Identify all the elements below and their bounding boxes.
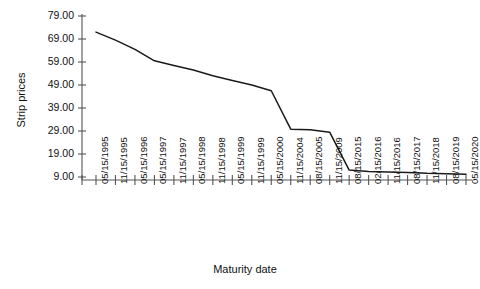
- x-tick-label: 11/15/2009: [334, 120, 344, 184]
- x-tick-label: 08/15/2019: [451, 120, 461, 184]
- x-tick-label: 11/15/2016: [392, 120, 402, 184]
- x-tick-label: 11/15/1999: [256, 120, 266, 184]
- y-tick-label: 79.00: [20, 10, 74, 20]
- x-tick-label: 11/15/1997: [178, 120, 188, 184]
- y-tick-label: 19.00: [20, 148, 74, 158]
- x-tick-label: 08/15/2015: [353, 120, 363, 184]
- x-tick-label: 05/15/2000: [275, 120, 285, 184]
- x-axis-title: Maturity date: [140, 263, 350, 275]
- x-tick-label: 05/15/1995: [100, 120, 110, 184]
- x-tick-label: 11/15/2004: [295, 120, 305, 184]
- x-tick-label: 05/15/1999: [236, 120, 246, 184]
- x-tick-label: 08/15/2005: [314, 120, 324, 184]
- y-tick-label: 59.00: [20, 56, 74, 66]
- x-tick-label: 02/15/2016: [373, 120, 383, 184]
- y-tick-label: 9.00: [20, 171, 74, 181]
- x-tick-label: 11/15/2018: [431, 120, 441, 184]
- x-tick-label: 11/15/1998: [217, 120, 227, 184]
- x-tick-label: 05/15/1996: [139, 120, 149, 184]
- y-tick-label: 39.00: [20, 102, 74, 112]
- x-tick-label: 08/15/2017: [412, 120, 422, 184]
- y-tick-label: 29.00: [20, 125, 74, 135]
- x-tick-label: 05/15/1998: [197, 120, 207, 184]
- y-tick-label: 49.00: [20, 79, 74, 89]
- y-tick-label: 69.00: [20, 33, 74, 43]
- x-tick-label: 05/15/1997: [158, 120, 168, 184]
- x-tick-label: 05/15/2020: [470, 120, 480, 184]
- x-tick-label: 11/15/1995: [119, 120, 129, 184]
